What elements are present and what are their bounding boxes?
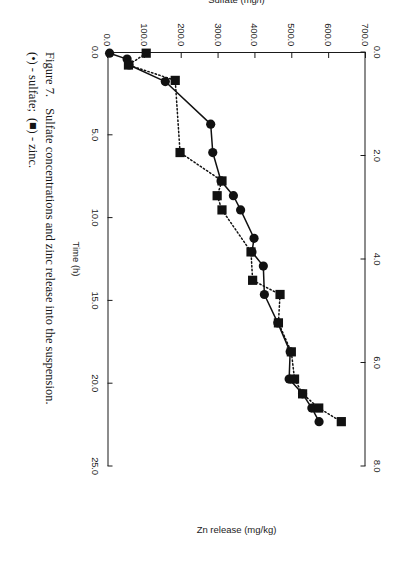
y-left-tick-label: 5.0 <box>89 128 100 141</box>
y-axis-right-title: Zn release (mg/kg) <box>196 524 276 535</box>
x-tick-label: 400.0 <box>249 8 260 46</box>
legend-entry-zinc: (■) - zinc. <box>25 118 39 168</box>
data-point-zinc <box>170 76 179 85</box>
y-right-tick-label: 0.0 <box>371 46 382 59</box>
data-point-sulfate <box>236 205 245 214</box>
data-point-sulfate <box>228 191 237 200</box>
legend-entry-sulfate: (•) - sulfate; <box>25 52 39 112</box>
data-point-sulfate <box>314 417 323 426</box>
data-point-zinc <box>217 176 226 185</box>
data-point-zinc <box>248 276 257 285</box>
data-point-sulfate <box>208 148 217 157</box>
rotated-page-container: 0.0100.0200.0300.0400.0500.0600.0700.0 0… <box>0 0 403 566</box>
tick-marks <box>107 52 365 466</box>
data-point-zinc <box>141 49 150 58</box>
data-point-zinc <box>212 191 221 200</box>
x-axis-title: Time (h) <box>70 241 81 276</box>
y-left-tick-label: 10.0 <box>89 209 100 227</box>
data-point-zinc <box>246 247 255 256</box>
data-point-zinc <box>275 290 284 299</box>
data-point-sulfate <box>259 290 268 299</box>
data-point-zinc <box>286 347 295 356</box>
data-point-zinc <box>336 417 345 426</box>
series-line-sulfate <box>109 53 319 421</box>
y-right-tick-label: 2.0 <box>371 149 382 162</box>
x-tick-label: 200.0 <box>175 8 186 46</box>
x-tick-label: 500.0 <box>286 8 297 46</box>
x-tick-label: 0.0 <box>102 8 113 46</box>
figure-caption-line-2: (•) - sulfate;(■) - zinc. <box>23 52 40 504</box>
x-tick-label: 100.0 <box>138 8 149 46</box>
data-point-sulfate <box>258 261 267 270</box>
y-left-tick-label: 0.0 <box>89 46 100 59</box>
y-axis-left-title: Sulfate (mg/l) <box>208 0 265 5</box>
figure-caption-line-1: Figure 7.Sulfate concentrations and zinc… <box>40 52 57 504</box>
figure-number: Figure 7. <box>42 52 56 97</box>
data-point-zinc <box>298 389 307 398</box>
data-point-zinc <box>217 205 226 214</box>
data-point-sulfate <box>160 77 169 86</box>
figure-caption: Figure 7.Sulfate concentrations and zinc… <box>23 52 58 504</box>
figure-sheet: 0.0100.0200.0300.0400.0500.0600.0700.0 0… <box>0 0 403 566</box>
data-point-zinc <box>273 318 282 327</box>
series-layer <box>104 49 345 427</box>
x-tick-label: 300.0 <box>212 8 223 46</box>
y-right-tick-label: 8.0 <box>371 460 382 473</box>
y-left-tick-label: 15.0 <box>89 292 100 310</box>
chart-plot-area: 0.0100.0200.0300.0400.0500.0600.0700.0 0… <box>107 52 365 466</box>
chart-canvas <box>107 52 365 466</box>
y-right-tick-label: 4.0 <box>371 253 382 266</box>
x-tick-label: 700.0 <box>360 8 371 46</box>
x-tick-label: 600.0 <box>323 8 334 46</box>
figure-caption-text: Sulfate concentrations and zinc release … <box>42 108 56 404</box>
y-left-tick-label: 25.0 <box>89 457 100 475</box>
data-point-zinc <box>175 148 184 157</box>
y-left-tick-label: 20.0 <box>89 374 100 392</box>
y-right-tick-label: 6.0 <box>371 356 382 369</box>
data-point-sulfate <box>249 234 258 243</box>
data-point-zinc <box>314 403 323 412</box>
series-line-zinc <box>128 53 341 421</box>
data-point-sulfate <box>104 49 113 58</box>
data-point-zinc <box>289 374 298 383</box>
data-point-zinc <box>123 60 132 69</box>
